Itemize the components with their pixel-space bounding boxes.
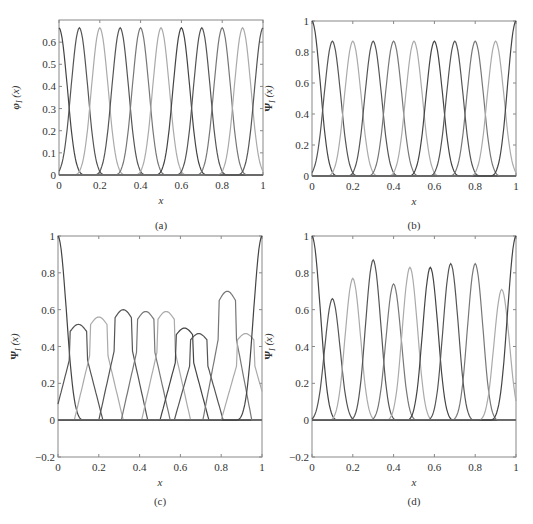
x-tick-label: 0.6 [175,179,189,191]
basis-curve [59,28,263,175]
x-tick-label: 0 [309,180,315,192]
y-tick-label: 0 [304,170,310,182]
y-tick-label: 0.4 [42,80,56,92]
x-tick-label: 0.4 [387,180,401,192]
plot-frame [59,20,263,175]
basis-curve [59,28,263,175]
chart-panel-d: 00.20.40.60.81−0.200.20.40.60.81xΨI (x)(… [262,230,519,508]
figure: 00.20.40.60.8100.10.20.30.40.50.6xφI (x)… [0,0,533,524]
y-tick-label: 1 [304,230,310,242]
x-axis-label: x [411,476,417,488]
x-axis-label: x [411,195,417,207]
plot-frame [58,236,262,457]
y-axis-label: ΨI (x) [262,85,277,112]
basis-curve [59,28,263,175]
y-tick-label: 0.4 [41,341,55,353]
basis-curve [59,28,263,175]
basis-curve [59,28,263,175]
y-tick-label: −0.2 [289,451,309,463]
y-tick-label: 0.2 [41,377,55,389]
basis-curve [58,291,262,420]
x-tick-label: 1 [513,461,519,473]
y-tick-label: 0.3 [42,103,56,115]
y-axis-label: ΨI (x) [8,333,23,360]
basis-curve [58,236,262,420]
y-tick-label: −0.2 [35,451,55,463]
y-tick-label: 0.5 [42,58,56,70]
x-tick-label: 0 [55,461,61,473]
basis-curve [59,28,263,175]
basis-curve [312,21,516,176]
x-tick-label: 0.8 [215,179,229,191]
x-tick-label: 0.8 [468,461,482,473]
x-tick-label: 0.6 [428,180,442,192]
y-tick-label: 0.6 [295,77,309,89]
y-tick-label: 0.8 [41,267,55,279]
basis-curve [58,236,262,420]
y-tick-label: 0.2 [295,139,309,151]
x-tick-label: 0.8 [214,461,228,473]
x-tick-label: 0.6 [174,461,188,473]
basis-curve [58,317,262,420]
x-tick-label: 0.4 [133,461,147,473]
y-tick-label: 0.6 [41,304,55,316]
x-axis-label: x [157,476,163,488]
basis-curve [312,21,516,176]
x-tick-label: 0 [309,461,315,473]
basis-curve [312,236,516,420]
plot-frame [312,236,516,457]
plot-frame [312,21,516,176]
y-tick-label: 0.2 [42,125,56,137]
basis-curve [59,28,263,175]
y-tick-label: 1 [50,230,56,242]
basis-curve [59,28,263,175]
x-tick-label: 0.2 [346,461,360,473]
x-tick-label: 1 [260,179,266,191]
x-tick-label: 0.6 [428,461,442,473]
panel-caption: (c) [154,495,167,508]
panel-caption: (b) [408,219,421,232]
y-axis-label: ΨI (x) [262,333,277,360]
x-axis-label: x [158,194,164,206]
basis-curve [312,236,516,420]
x-tick-label: 0.2 [92,461,106,473]
chart-panel-a: 00.20.40.60.8100.10.20.30.40.50.6xφI (x)… [9,20,266,232]
y-tick-label: 0.8 [295,46,309,58]
basis-curve [59,28,263,175]
y-tick-label: 0 [51,169,57,181]
y-tick-label: 0 [304,414,310,426]
basis-curve [59,28,263,175]
x-tick-label: 1 [259,461,265,473]
y-tick-label: 0.1 [42,147,56,159]
x-tick-label: 0 [56,179,62,191]
y-axis-label: φI (x) [9,85,24,109]
x-tick-label: 0.8 [468,180,482,192]
basis-curve [312,278,516,420]
panel-caption: (d) [408,495,421,508]
y-tick-label: 0.4 [295,108,309,120]
y-tick-label: 0 [50,414,56,426]
y-tick-label: 0.2 [295,377,309,389]
y-tick-label: 0.6 [295,304,309,316]
panel-caption: (a) [155,219,168,232]
chart-panel-b: 00.20.40.60.8100.20.40.60.81xΨI (x)(b) [262,15,519,232]
x-tick-label: 0.4 [387,461,401,473]
basis-curve [59,28,263,175]
y-tick-label: 0.8 [295,267,309,279]
y-tick-label: 1 [304,15,310,27]
x-tick-label: 0.2 [93,179,107,191]
x-tick-label: 0.2 [346,180,360,192]
basis-curve [312,267,516,420]
y-tick-label: 0.4 [295,341,309,353]
x-tick-label: 1 [513,180,519,192]
x-tick-label: 0.4 [134,179,148,191]
y-tick-label: 0.6 [42,36,56,48]
chart-panel-c: 00.20.40.60.81−0.200.20.40.60.81xΨI (x)(… [8,230,265,508]
